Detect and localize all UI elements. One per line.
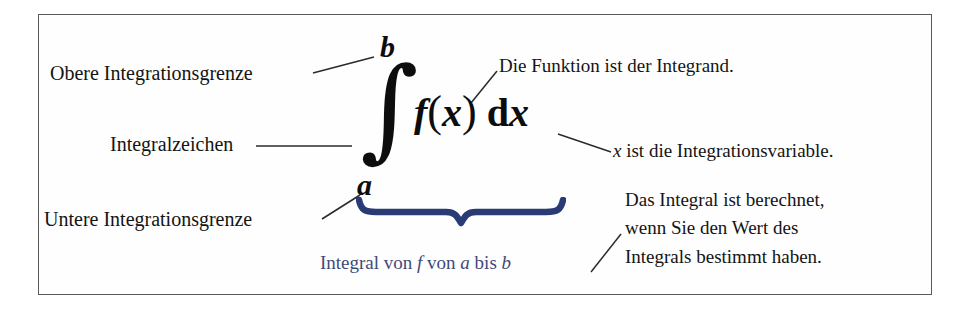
formula-integrand: f(x) dx: [414, 86, 529, 137]
formula-differential-d: d: [487, 90, 509, 135]
label-variable: x ist die Integrationsvariable.: [613, 140, 834, 161]
label-computed-line-1: Das Integral ist berechnet,: [625, 189, 824, 217]
label-computed-line-3: Integrals bestimmt haben.: [625, 246, 824, 274]
caption-word-von-1: von: [384, 252, 413, 273]
formula-variable-symbol: x: [442, 90, 462, 135]
integral-sign-glyph: ∫: [360, 52, 418, 164]
caption-word-integral: Integral: [320, 252, 379, 273]
brace-caption: Integral von f von a bis b: [320, 252, 511, 274]
integral-notation-diagram: Obere Integrationsgrenze Integralzeichen…: [0, 0, 960, 309]
label-upper-limit: Obere Integrationsgrenze: [50, 62, 253, 84]
formula-function-symbol: f: [414, 90, 427, 135]
formula-differential-variable: x: [509, 90, 529, 135]
label-computed-block: Das Integral ist berechnet, wenn Sie den…: [625, 189, 824, 274]
caption-word-von-2: von: [427, 252, 456, 273]
label-lower-limit: Untere Integrationsgrenze: [44, 208, 252, 230]
caption-symbol-a: a: [460, 252, 470, 273]
caption-symbol-b: b: [502, 252, 512, 273]
label-integral-sign: Integralzeichen: [110, 133, 233, 155]
caption-word-bis: bis: [475, 252, 497, 273]
formula-open-paren: (: [427, 87, 442, 136]
formula-close-paren: ): [462, 87, 477, 136]
underbrace-icon: [356, 197, 566, 227]
label-variable-rest: ist die Integrationsvariable.: [621, 140, 833, 161]
integral-formula: b ∫ a f(x) dx: [352, 28, 592, 208]
formula-differential: dx: [477, 90, 529, 135]
label-computed-line-2: wenn Sie den Wert des: [625, 217, 824, 245]
